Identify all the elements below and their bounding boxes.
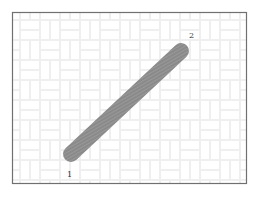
endpoint-label-1: 1 (67, 170, 72, 179)
diagram-canvas: 1 2 (0, 0, 264, 203)
endpoint-label-2: 2 (189, 31, 194, 40)
